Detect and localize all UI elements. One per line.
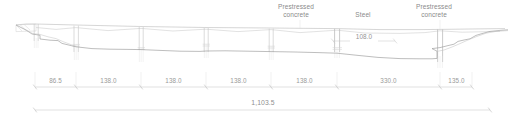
pier-group [34, 24, 442, 68]
total-length-label: 1,103.5 [232, 99, 294, 106]
span-label-6: 330.0 [371, 77, 406, 84]
material-label-prestressed-concrete-left: Prestressed concrete [268, 3, 324, 18]
deck-soffit-line [36, 28, 500, 34]
bridge-elevation-drawing: Prestressed concrete Steel Prestressed c… [0, 0, 510, 117]
material-label-line1: Prestressed [268, 3, 324, 11]
span-label-1: 86.5 [39, 77, 72, 84]
pier-caps [73, 44, 342, 49]
material-label-steel: Steel [340, 11, 386, 19]
deck-structure [16, 24, 505, 33]
span-label-7: 135.0 [439, 77, 474, 84]
material-label-line2: concrete [406, 11, 462, 19]
left-abutment-edge [16, 24, 30, 31]
total-dimension-chain [33, 108, 492, 113]
foundation-hatching [34, 38, 442, 68]
span-label-2: 138.0 [91, 77, 126, 84]
material-label-line2: concrete [268, 11, 324, 19]
leader-lines [300, 20, 440, 29]
material-label-line1: Steel [340, 11, 386, 19]
ground-secondary-right [437, 31, 508, 52]
pier-2-shape [139, 27, 143, 50]
ground-secondary-left [26, 30, 76, 46]
span-label-5: 138.0 [287, 77, 322, 84]
material-label-prestressed-concrete-right: Prestressed concrete [406, 3, 462, 18]
span-label-4: 138.0 [221, 77, 256, 84]
dimension-label-108: 108.0 [346, 33, 382, 40]
span-label-3: 138.0 [156, 77, 191, 84]
material-label-line1: Prestressed [406, 3, 462, 11]
